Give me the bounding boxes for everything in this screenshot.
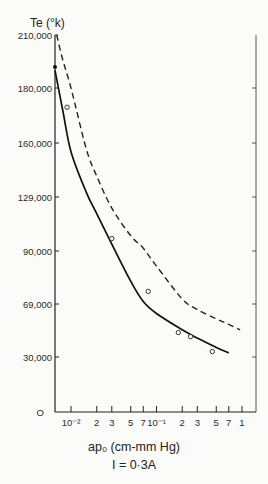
x-tick-label: 7	[226, 417, 231, 428]
x-tick-label: 7	[141, 417, 146, 428]
y-axis-ticks: 210,000180,000160,000129,00090,00069,000…	[18, 30, 59, 418]
start-point-marker	[53, 65, 57, 69]
x-axis-ticks: 10⁻²235710⁻¹23571	[62, 406, 245, 428]
x-tick-label: 10⁻¹	[147, 417, 166, 428]
x-tick-label: 5	[128, 417, 133, 428]
x-tick-label: 2	[94, 417, 99, 428]
x-tick-label: 3	[109, 417, 114, 428]
x-tick-label: 5	[214, 417, 219, 428]
y-tick-label: 210,000	[18, 30, 52, 41]
x-tick-label: 1	[239, 417, 244, 428]
data-point-markers	[65, 105, 215, 354]
solid-curve	[55, 70, 229, 353]
y-tick-label: 180,000	[18, 83, 52, 94]
y-tick-label: 69,000	[23, 299, 52, 310]
data-point-marker	[176, 330, 180, 334]
data-point-marker	[65, 105, 69, 109]
data-point-marker	[110, 236, 114, 240]
plot-frame	[55, 35, 256, 412]
x-tick-label: 3	[195, 417, 200, 428]
x-axis-title: ap₀ (cm-mm Hg)	[0, 440, 268, 454]
data-point-marker	[210, 349, 214, 353]
dashed-curve	[57, 35, 240, 330]
right-axis-ticks	[252, 88, 256, 357]
y-tick-label: O	[37, 407, 44, 418]
x-tick-label: 2	[180, 417, 185, 428]
y-tick-label: 129,000	[18, 192, 52, 203]
x-tick-label: 10⁻²	[62, 417, 81, 428]
data-point-marker	[188, 334, 192, 338]
data-point-marker	[146, 289, 150, 293]
y-axis-title: Te (°k)	[30, 16, 65, 30]
y-tick-label: 160,000	[18, 138, 52, 149]
y-tick-label: 30,000	[23, 352, 52, 363]
current-caption: I = 0·3A	[0, 458, 268, 472]
y-tick-label: 90,000	[23, 246, 52, 257]
chart-figure: 210,000180,000160,000129,00090,00069,000…	[0, 0, 268, 484]
